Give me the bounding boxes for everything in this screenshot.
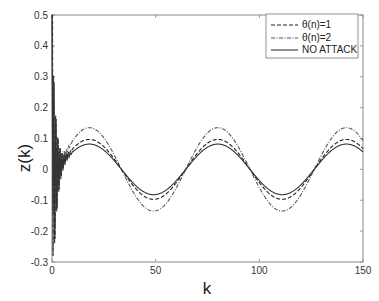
x-tick-label: 100	[251, 265, 268, 276]
y-tick-label: 0.2	[34, 102, 48, 113]
legend-label-no-attack: NO ATTACK	[302, 44, 358, 55]
y-axis-label: z(k)	[15, 144, 34, 172]
y-tick-label: -0.1	[31, 195, 49, 206]
y-tick-labels: -0.3-0.2-0.100.10.20.30.40.5	[31, 10, 49, 268]
y-tick-label: 0.5	[34, 10, 48, 21]
x-tick-label: 50	[150, 265, 162, 276]
y-tick-label: -0.3	[31, 257, 49, 268]
x-axis-label: k	[203, 279, 212, 298]
legend: θ(n)=1 θ(n)=2 NO ATTACK	[266, 14, 358, 58]
y-tick-label: 0.3	[34, 71, 48, 82]
y-tick-label: 0	[42, 164, 48, 175]
x-tick-label: 0	[49, 265, 55, 276]
line-chart: 050100150 -0.3-0.2-0.100.10.20.30.40.5 k…	[0, 0, 379, 301]
y-tick-label: 0.4	[34, 40, 48, 51]
legend-label-theta-2: θ(n)=2	[302, 32, 332, 43]
x-tick-labels: 050100150	[49, 265, 372, 276]
legend-label-theta-1: θ(n)=1	[302, 19, 332, 30]
y-tick-label: 0.1	[34, 133, 48, 144]
y-tick-label: -0.2	[31, 226, 49, 237]
x-tick-label: 150	[355, 265, 372, 276]
